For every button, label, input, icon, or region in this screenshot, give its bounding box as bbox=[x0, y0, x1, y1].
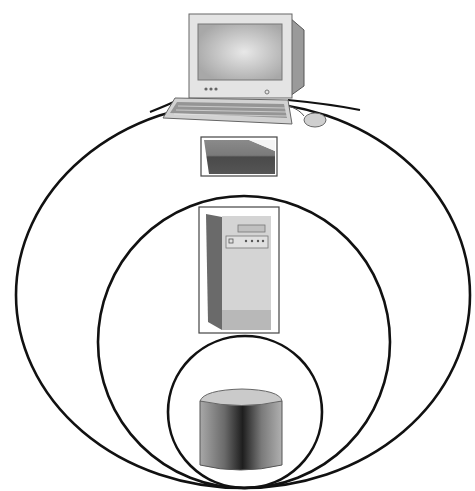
database-cylinder-icon bbox=[200, 389, 282, 470]
layer-diagram bbox=[0, 0, 475, 491]
tower-server-icon bbox=[199, 207, 279, 333]
thin-device-icon bbox=[201, 137, 277, 176]
desktop-computer-icon bbox=[150, 14, 360, 127]
